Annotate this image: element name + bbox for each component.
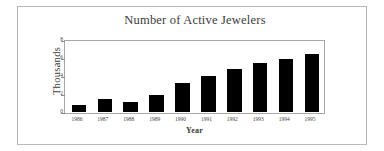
bar-slot — [175, 42, 190, 112]
bar-slot — [149, 42, 164, 112]
x-tick-label: 1994 — [271, 116, 297, 122]
bar — [72, 105, 87, 112]
bar — [305, 54, 320, 112]
y-tick-label: 0 — [60, 108, 63, 114]
x-tick-label: 1991 — [194, 116, 220, 122]
bar-slot — [279, 42, 294, 112]
bar — [123, 102, 138, 112]
bar — [227, 69, 242, 112]
bar — [175, 83, 190, 112]
chart-figure: Number of Active Jewelers Thousands 0246… — [0, 0, 384, 151]
bar — [279, 59, 294, 112]
y-tick-label: 2 — [60, 90, 63, 96]
x-tick-label: 1987 — [90, 116, 116, 122]
x-axis-label: Year — [64, 126, 325, 135]
bar — [98, 99, 113, 113]
y-tick-label: 4 — [60, 72, 63, 78]
bar-slot — [227, 42, 242, 112]
x-tick-label: 1986 — [64, 116, 90, 122]
x-tick-label: 1992 — [219, 116, 245, 122]
bar-slot — [72, 42, 87, 112]
bar — [149, 95, 164, 112]
chart-title: Number of Active Jewelers — [40, 13, 350, 28]
x-tick-label: 1988 — [116, 116, 142, 122]
bar-slot — [123, 42, 138, 112]
bar — [253, 63, 268, 113]
x-tick-label: 1989 — [142, 116, 168, 122]
plot-area: 02468 — [64, 40, 325, 114]
bar-slot — [253, 42, 268, 112]
bar-slot — [201, 42, 216, 112]
x-tick-label: 1993 — [245, 116, 271, 122]
y-tick-label: 8 — [60, 36, 63, 42]
bar-slot — [98, 42, 113, 112]
bar-series — [66, 42, 323, 112]
x-tick-label: 1990 — [168, 116, 194, 122]
bar — [201, 76, 216, 112]
bar-slot — [305, 42, 320, 112]
x-tick-label: 1995 — [297, 116, 323, 122]
y-tick-label: 6 — [60, 54, 63, 60]
